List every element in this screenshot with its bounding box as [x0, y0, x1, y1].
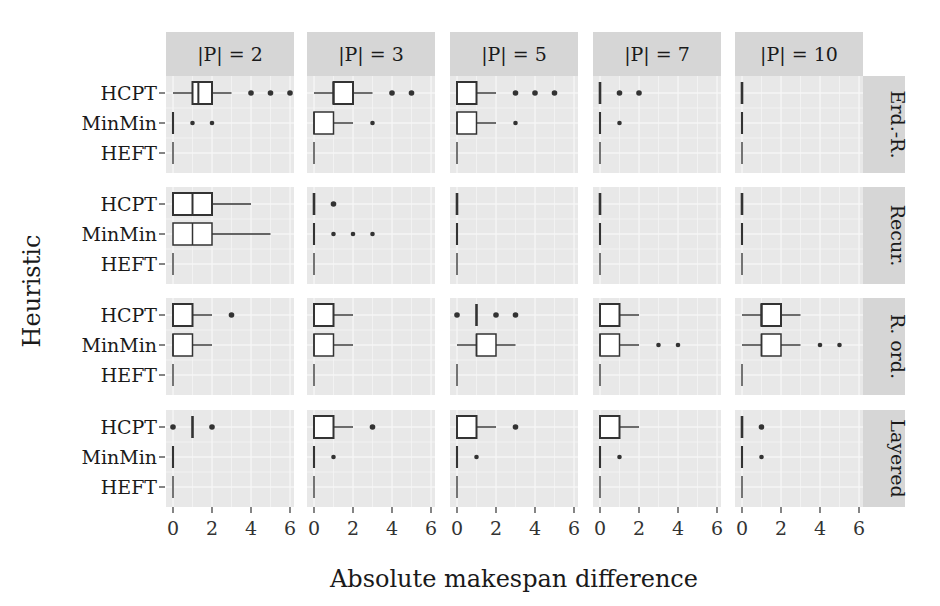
x-tick-label: 4	[814, 517, 826, 539]
x-tick-label: 4	[529, 517, 541, 539]
x-tick-label: 4	[672, 517, 684, 539]
row-strip-label: Recur.	[887, 205, 909, 266]
outlier-point	[759, 455, 764, 460]
y-category-label: HCPT	[100, 82, 157, 104]
outlier-point	[617, 90, 623, 96]
outlier-point	[170, 424, 176, 430]
x-tick-label: 4	[245, 517, 257, 539]
column-strip: |P| = 10	[735, 32, 863, 76]
outlier-point	[370, 232, 375, 237]
column-strip-label: |P| = 10	[760, 43, 838, 66]
outlier-point	[331, 201, 337, 207]
column-strip-label: |P| = 2	[197, 43, 263, 66]
y-category-label: HCPT	[100, 304, 157, 326]
outlier-point	[532, 90, 538, 96]
panel	[307, 410, 435, 507]
outlier-point	[513, 424, 519, 430]
panel	[593, 187, 721, 284]
x-tick-label: 2	[206, 517, 218, 539]
column-strip: |P| = 3	[307, 32, 435, 76]
x-tick-label: 0	[736, 517, 748, 539]
x-tick-label: 0	[594, 517, 606, 539]
row-strip-label: Erd.-R.	[887, 91, 909, 159]
faceted-boxplot-chart: |P| = 2|P| = 3|P| = 5|P| = 7|P| = 10 Erd…	[0, 0, 940, 606]
outlier-point	[389, 90, 395, 96]
y-category-label: MinMin	[81, 446, 157, 468]
outlier-point	[190, 121, 195, 126]
x-tick-label: 4	[386, 517, 398, 539]
outlier-point	[351, 232, 356, 237]
row-strip: R. ord.	[863, 298, 909, 395]
outlier-point	[656, 343, 661, 348]
panel	[593, 76, 721, 173]
panel	[593, 298, 721, 395]
panel	[166, 76, 294, 173]
x-tick-label: 0	[308, 517, 320, 539]
outlier-point	[513, 121, 518, 126]
x-tick-label: 2	[633, 517, 645, 539]
y-category-label: MinMin	[81, 334, 157, 356]
x-tick-label: 6	[425, 517, 437, 539]
row-strip-headers: Erd.-R.Recur.R. ord.Layered	[863, 76, 909, 507]
panel	[307, 298, 435, 395]
outlier-point	[617, 455, 622, 460]
outlier-point	[837, 343, 842, 348]
outlier-point	[370, 121, 375, 126]
y-axis: HCPTMinMinHEFTHCPTMinMinHEFTHCPTMinMinHE…	[81, 82, 165, 498]
column-strip-headers: |P| = 2|P| = 3|P| = 5|P| = 7|P| = 10	[166, 32, 863, 76]
outlier-point	[248, 90, 254, 96]
x-axis-title: Absolute makespan difference	[329, 565, 698, 593]
panel	[450, 76, 578, 173]
outlier-point	[636, 90, 642, 96]
x-tick-label: 0	[167, 517, 179, 539]
y-category-label: HEFT	[101, 364, 158, 386]
panel	[307, 187, 435, 284]
panel	[450, 187, 578, 284]
outlier-point	[513, 312, 519, 318]
panel	[450, 410, 578, 507]
panel	[307, 76, 435, 173]
outlier-point	[818, 343, 823, 348]
outlier-point	[409, 90, 415, 96]
panel	[735, 410, 863, 507]
outlier-point	[454, 312, 460, 318]
outlier-point	[210, 121, 215, 126]
column-strip: |P| = 2	[166, 32, 294, 76]
y-category-label: HCPT	[100, 416, 157, 438]
outlier-point	[287, 90, 293, 96]
panel	[166, 187, 294, 284]
row-strip: Recur.	[863, 187, 909, 284]
y-category-label: HCPT	[100, 193, 157, 215]
y-category-label: HEFT	[101, 253, 158, 275]
outlier-point	[474, 455, 479, 460]
x-tick-label: 6	[711, 517, 723, 539]
panel	[735, 76, 863, 173]
x-tick-label: 6	[284, 517, 296, 539]
y-category-label: MinMin	[81, 223, 157, 245]
outlier-point	[209, 424, 215, 430]
panel	[735, 187, 863, 284]
y-axis-title: Heuristic	[18, 235, 46, 348]
column-strip: |P| = 7	[593, 32, 721, 76]
outlier-point	[229, 312, 235, 318]
y-category-label: MinMin	[81, 112, 157, 134]
column-strip: |P| = 5	[450, 32, 578, 76]
outlier-point	[331, 232, 336, 237]
x-tick-label: 6	[853, 517, 865, 539]
panel	[166, 410, 294, 507]
outlier-point	[331, 455, 336, 460]
outlier-point	[513, 90, 519, 96]
outlier-point	[493, 312, 499, 318]
y-category-label: HEFT	[101, 142, 158, 164]
row-strip: Erd.-R.	[863, 76, 909, 173]
outlier-point	[552, 90, 558, 96]
column-strip-label: |P| = 7	[624, 43, 690, 66]
panel	[166, 298, 294, 395]
x-tick-label: 0	[451, 517, 463, 539]
outlier-point	[759, 424, 765, 430]
panel	[735, 298, 863, 395]
panel	[450, 298, 578, 395]
x-tick-label: 2	[490, 517, 502, 539]
x-tick-label: 6	[568, 517, 580, 539]
outlier-point	[268, 90, 274, 96]
